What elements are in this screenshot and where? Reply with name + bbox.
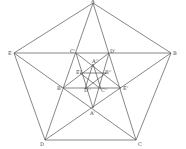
label-B2: B'' (105, 69, 111, 75)
label-E2: E'' (76, 69, 82, 75)
label-D1: D' (110, 48, 115, 54)
label-E: E (8, 50, 12, 56)
label-A2: A'' (91, 58, 98, 64)
outer-pentagon (14, 3, 171, 140)
label-B1: B' (57, 85, 62, 91)
pentagon-diagram: A B C D E A' B' C' D' E' A'' B'' C'' D''… (0, 0, 186, 149)
label-B: B (173, 50, 177, 56)
label-D2: D'' (84, 87, 91, 93)
label-A1: A' (89, 110, 95, 116)
label-C1: C' (70, 48, 75, 54)
label-D: D (40, 141, 44, 147)
label-C: C (138, 141, 142, 147)
label-E1: E' (123, 85, 128, 91)
label-A: A (90, 0, 95, 4)
label-C2: C'' (101, 87, 108, 93)
